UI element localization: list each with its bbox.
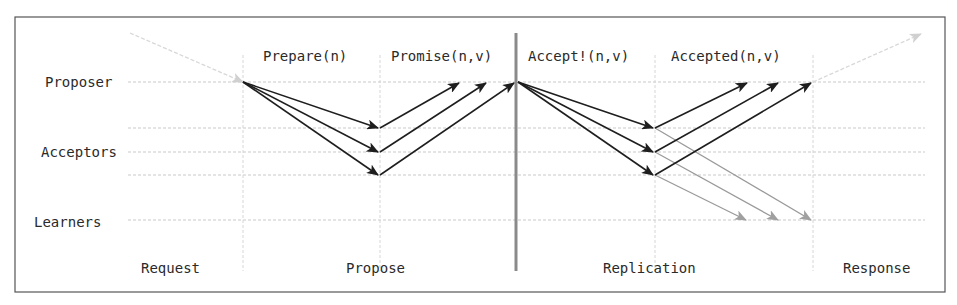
accept-arrow [518, 82, 653, 128]
accepted-to-learner-arrow [655, 152, 778, 220]
message-label-promise: Promise(n,v) [391, 48, 492, 64]
role-label-proposer: Proposer [45, 74, 112, 90]
accepted-to-learner-arrow [655, 128, 811, 220]
phase-label-request: Request [141, 260, 200, 276]
accepted-arrow [655, 83, 811, 175]
lane-gridlines [128, 82, 925, 220]
role-label-learners: Learners [34, 214, 101, 230]
prepare-arrow [243, 82, 378, 128]
role-label-acceptors: Acceptors [41, 144, 117, 160]
promise-arrow [380, 83, 486, 152]
accepted-arrows [655, 83, 811, 175]
accept-arrow [518, 82, 653, 152]
accepted-arrow [655, 83, 747, 128]
promise-arrow [380, 83, 514, 175]
client-response-arrow [813, 34, 921, 82]
learner-arrows [655, 128, 811, 220]
promise-arrow [380, 83, 459, 128]
client-request-arrow [130, 33, 243, 82]
phase-label-replication: Replication [603, 260, 696, 276]
message-label-accepted: Accepted(n,v) [671, 48, 781, 64]
phase-label-response: Response [843, 260, 910, 276]
phase-label-propose: Propose [346, 260, 405, 276]
promise-arrows [380, 83, 514, 175]
accepted-to-learner-arrow [655, 175, 746, 220]
message-label-prepare: Prepare(n) [263, 48, 347, 64]
accepted-arrow [655, 83, 778, 152]
paxos-message-flow-diagram: Proposer Acceptors Learners Prepare(n) P… [0, 0, 957, 305]
prepare-arrow [243, 82, 378, 152]
message-label-accept: Accept!(n,v) [528, 48, 629, 64]
